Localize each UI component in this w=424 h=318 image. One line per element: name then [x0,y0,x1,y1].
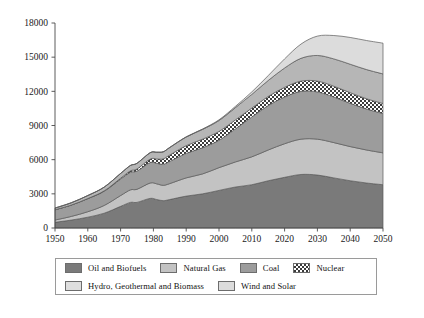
x-tick-label: 1970 [111,234,130,244]
legend-swatch-icon [65,263,82,273]
y-axis-tick-labels: 0300060009000120001500018000 [24,18,48,233]
y-tick-label: 15000 [24,52,48,62]
chart-plot-area: 0300060009000120001500018000 19501960197… [0,0,424,250]
legend-row-2: Hydro, Geothermal and BiomassWind and So… [56,277,376,295]
legend-label: Hydro, Geothermal and Biomass [88,281,204,291]
legend-swatch-icon [240,263,257,273]
legend-swatch-icon [293,263,310,273]
x-tick-label: 1990 [177,234,196,244]
legend-item-coal[interactable]: Coal [240,263,280,273]
legend-item-wind-and-solar[interactable]: Wind and Solar [218,281,296,291]
x-tick-label: 1960 [78,234,97,244]
y-tick-label: 6000 [29,155,48,165]
x-tick-label: 2040 [341,234,360,244]
area-series-group [55,35,383,228]
y-tick-label: 0 [43,223,48,233]
legend-item-natural-gas[interactable]: Natural Gas [160,263,225,273]
x-tick-label: 2000 [210,234,229,244]
x-tick-label: 2050 [374,234,393,244]
chart-page: 0300060009000120001500018000 19501960197… [0,0,424,318]
x-tick-label: 2010 [242,234,261,244]
legend-item-oil-and-biofuels[interactable]: Oil and Biofuels [65,263,146,273]
legend-label: Wind and Solar [241,281,296,291]
legend-label: Nuclear [316,263,344,273]
legend-label: Oil and Biofuels [88,263,146,273]
legend-swatch-icon [65,281,82,291]
chart-legend: Oil and BiofuelsNatural GasCoalNuclear H… [55,258,377,295]
y-tick-label: 12000 [24,87,48,97]
y-tick-label: 18000 [24,18,48,28]
x-axis-tick-labels: 1950196019701980199020002010202020302040… [46,234,393,244]
x-tick-label: 2030 [308,234,327,244]
legend-item-hydro-geothermal-and-biomass[interactable]: Hydro, Geothermal and Biomass [65,281,204,291]
legend-label: Natural Gas [183,263,225,273]
legend-swatch-icon [218,281,235,291]
legend-row-1: Oil and BiofuelsNatural GasCoalNuclear [56,259,376,277]
legend-label: Coal [263,263,280,273]
stacked-area-chart: 0300060009000120001500018000 19501960197… [0,0,424,250]
y-tick-label: 3000 [29,189,48,199]
legend-item-nuclear[interactable]: Nuclear [293,263,344,273]
legend-swatch-icon [160,263,177,273]
x-tick-label: 1980 [144,234,163,244]
x-tick-label: 1950 [46,234,65,244]
x-tick-label: 2020 [275,234,294,244]
y-tick-label: 9000 [29,121,48,131]
